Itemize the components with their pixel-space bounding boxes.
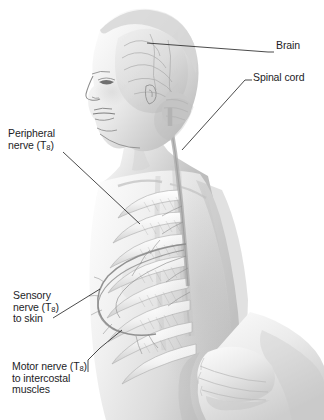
label-peripheral-line2-prefix: nerve (T <box>8 139 46 151</box>
label-brain-text: Brain <box>276 39 300 51</box>
label-sensory-nerve: Sensory nerve (T8) to skin <box>13 290 83 325</box>
label-spinal-cord: Spinal cord <box>253 72 304 84</box>
label-sensory-line2-suffix: ) <box>55 301 58 313</box>
label-motor-line2: to intercostal <box>12 372 70 384</box>
label-spinal-cord-text: Spinal cord <box>253 71 304 83</box>
label-motor-line3: muscles <box>12 383 50 395</box>
label-peripheral-nerve: Peripheral nerve (T8) <box>8 128 82 151</box>
label-peripheral-line2-suffix: ) <box>50 139 53 151</box>
anatomy-figure: Brain Spinal cord Peripheral nerve (T8) … <box>0 0 324 420</box>
label-motor-line1-suffix: ) <box>84 360 87 372</box>
label-sensory-line2-prefix: nerve (T <box>13 301 51 313</box>
label-brain: Brain <box>276 40 300 52</box>
label-peripheral-line1: Peripheral <box>8 127 55 139</box>
label-motor-line1-prefix: Motor nerve (T <box>12 360 79 372</box>
label-motor-nerve: Motor nerve (T8) to intercostal muscles <box>12 361 104 396</box>
head <box>86 9 199 152</box>
label-sensory-line3: to skin <box>13 312 43 324</box>
anatomy-illustration <box>0 0 324 420</box>
label-sensory-line1: Sensory <box>13 289 51 301</box>
